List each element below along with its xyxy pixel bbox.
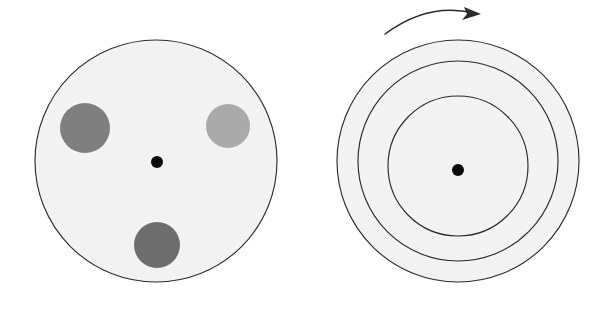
rotation-direction-arrow[interactable] xyxy=(385,7,481,34)
marker-dot-bottom[interactable] xyxy=(134,222,180,268)
right-disk-body[interactable] xyxy=(337,40,579,282)
figure-canvas xyxy=(0,0,604,313)
left-rotation-axis-dot[interactable] xyxy=(151,156,163,168)
right-rotation-axis-dot[interactable] xyxy=(452,164,464,176)
rotation-arrowhead-icon xyxy=(462,7,481,20)
rotation-arc xyxy=(385,10,474,34)
right-panel-concentric-paths xyxy=(332,35,587,290)
marker-dot-upper-right[interactable] xyxy=(206,104,250,148)
figure-root xyxy=(0,0,604,313)
left-panel-disk-with-markers xyxy=(30,35,285,290)
marker-dot-upper-left[interactable] xyxy=(60,103,110,153)
